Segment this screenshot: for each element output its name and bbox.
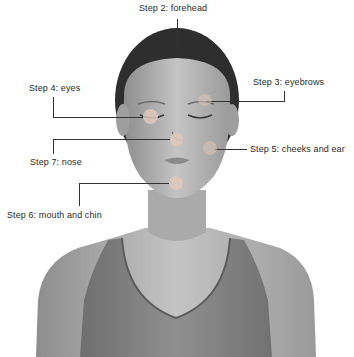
step-7-leader-line-vertical <box>53 139 54 154</box>
step-4-leader-line-vertical <box>53 97 54 117</box>
step-4-leader-line-horizontal <box>53 117 150 118</box>
step-3-leader-line-horizontal <box>206 101 285 102</box>
step-6-dot <box>169 176 183 190</box>
step-5-dot <box>203 141 217 155</box>
step-7-dot <box>170 133 183 146</box>
step-5-label: Step 5: cheeks and ear <box>250 144 345 154</box>
step-7-label: Step 7: nose <box>30 157 82 167</box>
step-5-leader-line <box>215 149 247 150</box>
step-2-label: Step 2: forehead <box>139 3 207 13</box>
step-2-leader-line <box>177 19 178 55</box>
step-6-leader-line-horizontal <box>79 183 169 184</box>
diagram: Step 2: forehead Step 3: eyebrows Step 4… <box>0 0 354 357</box>
step-7-leader-line-horizontal <box>53 139 171 140</box>
step-6-leader-line-vertical <box>79 183 80 206</box>
step-3-dot <box>198 94 212 106</box>
step-3-label: Step 3: eyebrows <box>253 77 324 87</box>
step-4-dot <box>143 109 158 124</box>
step-6-label: Step 6: mouth and chin <box>7 210 102 220</box>
step-4-label: Step 4: eyes <box>29 83 80 93</box>
